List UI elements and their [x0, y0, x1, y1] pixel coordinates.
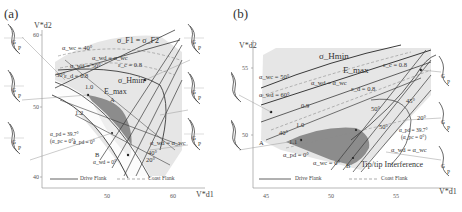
pinion-label: P [18, 146, 21, 152]
annotation: α_wc = 0° [313, 160, 340, 167]
pinion-label: P [198, 46, 201, 52]
y-axis-label: V*d2 [239, 42, 257, 50]
gear-label: G [192, 136, 196, 142]
x-tick: 50 [328, 193, 334, 199]
annotation: 1.1 [289, 139, 297, 146]
annotation: 20° [417, 115, 426, 122]
gear-label: G [12, 140, 16, 146]
annotation: σ_F1 = σ_F2 [117, 37, 159, 45]
gear-label: G [12, 88, 16, 94]
annotation: 0.9 [301, 103, 309, 110]
y-tick: 55 [242, 65, 248, 71]
panel-b-plot [231, 0, 462, 212]
tip-interference-label: Tip/tip Interference [361, 161, 423, 169]
annotation: ε_d = 0.8 [351, 86, 375, 93]
legend-coast-flank: Coast Flank [148, 176, 174, 182]
gear-label: G [441, 120, 445, 126]
legend-drive-flank: Drive Flank [80, 176, 106, 182]
gear-label: G [12, 40, 16, 46]
annotation: α_pd = 39.7° [399, 128, 428, 134]
x-axis-label: V*d1 [196, 191, 214, 199]
annotation: 50° [371, 106, 380, 113]
panel-b: (b) [231, 0, 462, 212]
point-a-label: A [110, 97, 115, 104]
panel-a: (a) [0, 0, 231, 212]
y-tick: 40 [33, 174, 39, 180]
y-tick: 60 [33, 32, 39, 38]
annotation: 45° [406, 98, 415, 105]
annotation: 50° [379, 124, 388, 131]
annotation: ε_c = 0.8 [383, 62, 407, 69]
annotation: σ_Hmin [118, 77, 145, 85]
pinion-label: P [447, 80, 450, 86]
pinion-label: P [447, 170, 450, 176]
pinion-label: P [18, 94, 21, 100]
annotation: σ_Hmin [319, 52, 349, 61]
annotation: ε_c = 0.8 [118, 62, 142, 69]
annotation: E_max [343, 66, 369, 75]
pinion-label: P [447, 126, 450, 132]
annotation: α_wd = 0° [93, 160, 116, 166]
annotation: (α_pc = 0°) [401, 135, 426, 141]
x-tick: 45 [263, 193, 269, 199]
annotation: E_max [104, 88, 127, 96]
annotation: ε_d = 0.8 [64, 73, 88, 80]
annotation: α_wc = 40° [62, 45, 92, 52]
annotation: 1.0 [85, 84, 93, 91]
pinion-label: P [18, 46, 21, 52]
y-axis-label: V*d2 [34, 22, 52, 30]
x-tick: 55 [393, 193, 399, 199]
x-tick: 60 [170, 193, 176, 199]
annotation: (α_pc = 0°) [50, 139, 75, 145]
x-tick: 50 [104, 193, 110, 199]
annotation: α_pd = 0° [283, 152, 309, 159]
annotation: 20° [146, 157, 155, 164]
pinion-label: P [198, 96, 201, 102]
gear-label: G [192, 90, 196, 96]
annotation: α_wd = α_wc [311, 80, 347, 87]
gear-label: G [441, 164, 445, 170]
legend-drive-flank: Drive Flank [295, 176, 321, 182]
annotation: α_wd = 60° [259, 92, 290, 99]
point-a-label: A [259, 140, 264, 147]
annotation: α_wc = 50° [259, 74, 289, 81]
gear-label: G [192, 40, 196, 46]
annotation: α_pd = 39.7° [50, 132, 79, 138]
annotation: 1.2 [75, 110, 83, 117]
annotation: 1.0 [296, 122, 304, 129]
annotation: α_wd = 50° [70, 63, 101, 70]
annotation: α_wd = α_wc [391, 147, 427, 154]
annotation: α_wd = α_wc [150, 140, 186, 147]
x-axis-label: V*d1 [439, 188, 457, 196]
gear-label: G [441, 74, 445, 80]
legend-coast-flank: Coast Flank [381, 176, 407, 182]
annotation: 40° [279, 130, 288, 137]
y-tick: 50 [242, 132, 248, 138]
point-b-label: B [95, 152, 99, 159]
y-tick: 50 [33, 104, 39, 110]
pinion-label: P [198, 142, 201, 148]
annotation: α_pd = 0° [73, 140, 95, 146]
point-b-label: B [346, 163, 350, 170]
